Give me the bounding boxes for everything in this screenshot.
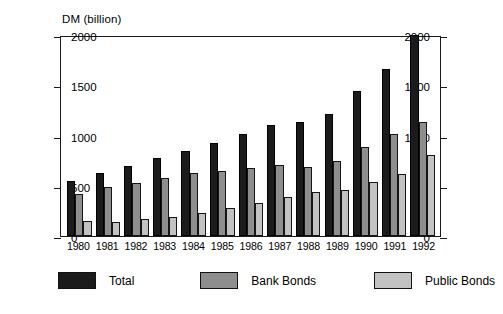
bar-group [151, 37, 180, 236]
bar-total-1980 [67, 181, 75, 236]
bar-group [65, 37, 94, 236]
bar-public-bonds-1990 [369, 182, 377, 236]
legend-item-total: Total [58, 272, 134, 289]
bar-bank-bonds-1991 [390, 134, 398, 237]
bar-bank-bonds-1982 [132, 183, 140, 236]
bar-bank-bonds-1987 [275, 165, 283, 236]
tick-mark [54, 37, 61, 38]
bar-group [322, 37, 351, 236]
bar-public-bonds-1981 [112, 222, 120, 236]
bar-total-1992 [410, 35, 418, 236]
tick-mark [54, 238, 61, 239]
bar-group [351, 37, 380, 236]
bar-public-bonds-1989 [341, 190, 349, 236]
tick-mark [440, 188, 447, 189]
bar-bank-bonds-1983 [161, 178, 169, 236]
bar-public-bonds-1987 [284, 197, 292, 236]
bar-group [408, 37, 437, 236]
bar-total-1981 [96, 173, 104, 236]
bar-bank-bonds-1986 [247, 168, 255, 236]
x-tick-label-1987: 1987 [265, 240, 294, 252]
legend-item-public: Public Bonds [374, 272, 495, 289]
x-tick-label-1989: 1989 [323, 240, 352, 252]
bar-public-bonds-1991 [398, 174, 406, 236]
tick-mark [440, 138, 447, 139]
bar-public-bonds-1984 [198, 213, 206, 236]
x-tick-label-1988: 1988 [294, 240, 323, 252]
bar-total-1989 [325, 114, 333, 236]
bar-total-1984 [181, 151, 189, 236]
tick-mark [440, 87, 447, 88]
bar-bank-bonds-1980 [75, 194, 83, 236]
bar-total-1982 [124, 166, 132, 236]
bar-total-1985 [210, 143, 218, 236]
bar-group [122, 37, 151, 236]
bar-group [94, 37, 123, 236]
x-tick-label-1984: 1984 [179, 240, 208, 252]
bar-bank-bonds-1985 [218, 171, 226, 236]
x-tick-label-1990: 1990 [352, 240, 381, 252]
x-tick-label-1992: 1992 [409, 240, 438, 252]
bar-bank-bonds-1989 [333, 161, 341, 236]
x-tick-label-1981: 1981 [93, 240, 122, 252]
bar-total-1990 [353, 91, 361, 236]
tick-mark [54, 188, 61, 189]
legend-label-total: Total [109, 274, 134, 288]
bar-public-bonds-1983 [169, 217, 177, 236]
bar-public-bonds-1982 [141, 219, 149, 236]
legend-swatch-bank [200, 272, 238, 289]
bar-bank-bonds-1992 [419, 122, 427, 236]
plot-area: 0500100015002000 0500100015002000 [60, 36, 441, 237]
legend-item-bank: Bank Bonds [200, 272, 316, 289]
bar-bank-bonds-1988 [304, 167, 312, 236]
y-axis-title: DM (billion) [62, 13, 121, 25]
tick-mark [54, 87, 61, 88]
bar-total-1986 [239, 134, 247, 236]
bar-group [294, 37, 323, 236]
tick-mark [440, 37, 447, 38]
bar-total-1983 [153, 158, 161, 236]
x-tick-label-1985: 1985 [208, 240, 237, 252]
bar-public-bonds-1980 [83, 221, 91, 236]
bar-public-bonds-1986 [255, 203, 263, 236]
legend-label-bank: Bank Bonds [251, 274, 316, 288]
bar-public-bonds-1992 [427, 155, 435, 236]
bar-total-1987 [267, 125, 275, 236]
x-tick-label-1986: 1986 [237, 240, 266, 252]
legend-swatch-total [58, 272, 96, 289]
chart-legend: TotalBank BondsPublic Bonds [58, 272, 458, 289]
x-tick-label-1983: 1983 [150, 240, 179, 252]
bar-bank-bonds-1984 [190, 173, 198, 236]
bar-total-1988 [296, 122, 304, 236]
x-tick-label-1991: 1991 [380, 240, 409, 252]
bar-groups [61, 37, 440, 236]
bar-public-bonds-1988 [312, 192, 320, 236]
bar-bank-bonds-1981 [104, 187, 112, 236]
bar-group [208, 37, 237, 236]
bar-total-1991 [382, 69, 390, 236]
bar-group [265, 37, 294, 236]
x-axis-labels: 1980198119821983198419851986198719881989… [60, 240, 441, 252]
legend-label-public: Public Bonds [425, 274, 495, 288]
x-tick-label-1982: 1982 [122, 240, 151, 252]
bar-group [380, 37, 409, 236]
bar-group [179, 37, 208, 236]
bar-public-bonds-1985 [226, 208, 234, 236]
tick-mark [440, 238, 447, 239]
x-tick-label-1980: 1980 [64, 240, 93, 252]
chart-figure: DM (billion) 0500100015002000 0500100015… [0, 0, 503, 314]
tick-mark [54, 138, 61, 139]
bar-group [237, 37, 266, 236]
bar-bank-bonds-1990 [361, 147, 369, 236]
legend-swatch-public [374, 272, 412, 289]
